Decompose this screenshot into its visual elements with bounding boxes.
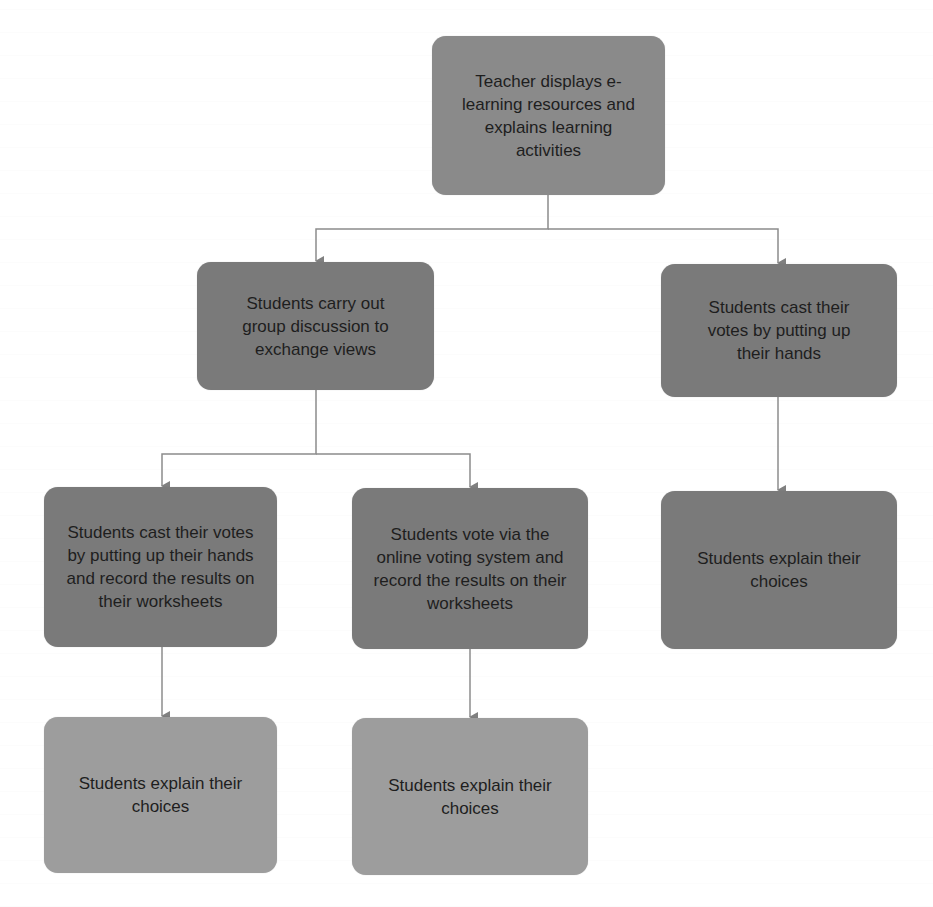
explain-left-text: Students explain their choices <box>61 772 261 818</box>
explain-left-node: Students explain their choices <box>44 717 277 873</box>
connector-root-to-group-discussion <box>316 195 548 261</box>
connector-group-to-hands-vote-record <box>162 390 316 486</box>
hands-vote-record-node: Students cast their votes by putting up … <box>44 487 277 647</box>
explain-mid-node: Students explain their choices <box>352 718 588 875</box>
connector-root-to-hands-vote-direct <box>548 229 778 263</box>
hands-vote-direct-text: Students cast their votes by putting up … <box>689 296 869 365</box>
root-node: Teacher displays e-learning resources an… <box>432 36 665 195</box>
connector-group-to-online-vote-record <box>316 454 470 487</box>
hands-vote-record-text: Students cast their votes by putting up … <box>58 521 263 613</box>
explain-right-node: Students explain their choices <box>661 491 897 649</box>
explain-right-text: Students explain their choices <box>679 547 879 593</box>
hands-vote-direct-node: Students cast their votes by putting up … <box>661 264 897 397</box>
online-vote-record-node: Students vote via the online voting syst… <box>352 488 588 649</box>
group-discussion-node: Students carry out group discussion to e… <box>197 262 434 390</box>
online-vote-record-text: Students vote via the online voting syst… <box>370 523 570 615</box>
group-discussion-text: Students carry out group discussion to e… <box>226 292 406 361</box>
root-node-text: Teacher displays e-learning resources an… <box>454 70 644 162</box>
explain-mid-text: Students explain their choices <box>370 774 570 820</box>
